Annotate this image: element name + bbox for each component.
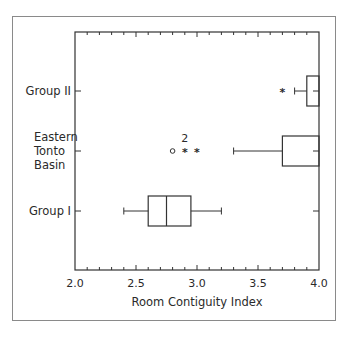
outlier-star-marker: * — [194, 146, 200, 159]
y-category-label: Eastern — [34, 130, 78, 144]
boxplot-chart: 2.02.53.03.54.0 Group IIEasternTontoBasi… — [0, 0, 352, 339]
box-eastern-tonto-basin: *2* — [170, 132, 319, 166]
y-category-label: Group I — [29, 204, 71, 218]
outlier-count-annotation: 2 — [181, 132, 188, 145]
outlier-circle-marker — [170, 149, 175, 154]
x-tick-label: 2.5 — [127, 277, 145, 290]
x-tick-labels: 2.02.53.03.54.0 — [66, 277, 328, 290]
x-axis-title: Room Contiguity Index — [132, 295, 263, 309]
outlier-star-marker: * — [280, 86, 286, 99]
box-group-i — [124, 196, 222, 226]
box-series: **2* — [124, 76, 319, 226]
y-category-labels: Group IIEasternTontoBasinGroup I — [26, 84, 78, 218]
x-tick-label: 4.0 — [310, 277, 328, 290]
y-category-label: Basin — [34, 158, 65, 172]
x-tick-label: 2.0 — [66, 277, 84, 290]
y-category-label: Group II — [26, 84, 71, 98]
x-tick-label: 3.0 — [188, 277, 206, 290]
outlier-star-marker: * — [182, 146, 188, 159]
x-tick-label: 3.5 — [249, 277, 267, 290]
y-category-label: Tonto — [33, 144, 65, 158]
